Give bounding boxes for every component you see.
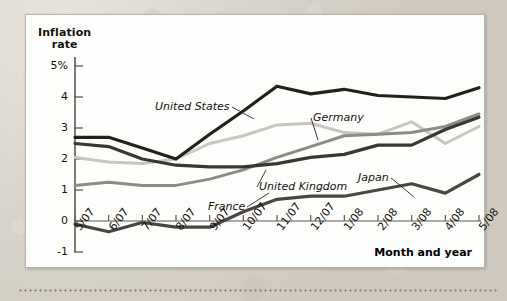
series-annotation-germany: Germany [313,111,364,124]
y-tick-label: 2 [42,152,68,165]
chart-card: Inflation rate Month and year 5%43210-15… [25,14,485,268]
y-tick-label: -1 [42,245,68,258]
y-tick-label: 3 [42,121,68,134]
series-annotation-france: France [208,200,245,213]
y-tick-label: 5% [42,59,68,72]
series-annotation-united-kingdom: United Kingdom [259,180,347,193]
y-tick-label: 4 [42,90,68,103]
series-line-united-states [75,86,479,159]
figure-page: Inflation rate Month and year 5%43210-15… [0,0,507,301]
y-tick-label: 0 [42,214,68,227]
series-annotation-united-states: United States [155,100,230,113]
page-bottom-dotted-rule [18,289,497,292]
y-tick-label: 1 [42,183,68,196]
series-annotation-japan: Japan [358,171,389,184]
